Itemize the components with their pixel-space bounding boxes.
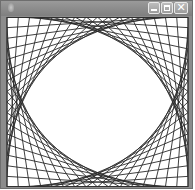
maximize-icon	[164, 5, 170, 11]
string-art-drawing	[7, 17, 188, 187]
stitch-line	[177, 17, 188, 176]
stitch-line	[177, 28, 188, 187]
close-button[interactable]: ✕	[174, 2, 188, 14]
minimize-button[interactable]	[148, 2, 160, 14]
drawing-canvas	[6, 17, 189, 187]
stitch-line	[98, 17, 189, 102]
stitch-line	[7, 28, 18, 187]
maximize-button[interactable]	[161, 2, 173, 14]
app-icon[interactable]	[8, 3, 14, 12]
app-window: ✕	[0, 0, 193, 189]
stitch-line	[7, 17, 98, 102]
stitch-line	[98, 102, 189, 187]
close-icon: ✕	[175, 3, 187, 13]
minimize-icon	[151, 9, 157, 11]
title-bar[interactable]: ✕	[1, 1, 192, 16]
stitch-line	[7, 17, 18, 176]
stitch-line	[7, 102, 98, 187]
